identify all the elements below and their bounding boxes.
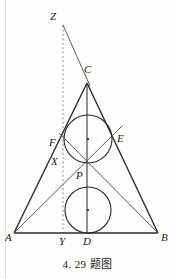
- point-label-B: B: [161, 232, 168, 243]
- point-label-Y: Y: [59, 236, 65, 247]
- point-label-F: F: [49, 137, 56, 148]
- circle-lower-center-dot: [87, 209, 89, 211]
- point-label-P: P: [76, 170, 83, 181]
- point-label-D: D: [83, 236, 91, 247]
- figure-page: Z C F E X P A Y D B 4. 29 题图: [0, 0, 175, 279]
- point-label-X: X: [51, 156, 58, 167]
- point-label-A: A: [5, 232, 12, 243]
- point-label-Z: Z: [50, 11, 56, 22]
- point-label-E: E: [117, 133, 124, 144]
- segment-ZC: [63, 25, 90, 86]
- segment-BF: [59, 133, 158, 233]
- figure-caption: 4. 29 题图: [0, 255, 175, 271]
- point-label-C: C: [84, 64, 91, 75]
- segment-BC: [87, 83, 158, 233]
- circle-upper-center-dot: [87, 138, 89, 140]
